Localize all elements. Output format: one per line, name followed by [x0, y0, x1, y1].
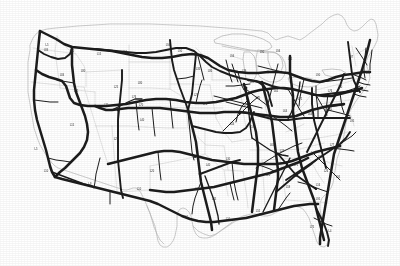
junction-node [257, 163, 259, 165]
route-shield-label: I-15 [70, 123, 75, 127]
route-shield-label: I-10 [226, 217, 231, 221]
route-shield-label: I-70 [104, 103, 109, 107]
route-shield-label: I-20 [266, 173, 271, 177]
route-shield-label: I-10 [44, 169, 49, 173]
route-shield-label: I-80 [208, 69, 213, 73]
route-shield-label: I-84 [44, 48, 49, 52]
route-i15 [56, 47, 88, 176]
route-i17 [94, 158, 100, 188]
junction-node [117, 109, 119, 111]
route-shield-label: I-76 [132, 95, 137, 99]
route-shield-label: I-87 [349, 55, 354, 59]
lake-michigan [243, 52, 257, 82]
state-line-or-ca [31, 82, 84, 87]
southern-coast-detail [147, 206, 164, 244]
route-nashville-spoke-sw [256, 154, 278, 168]
route-shield-label: I-29 [194, 53, 199, 57]
state-line-az-nm [112, 126, 117, 192]
route-plains-b [170, 99, 173, 128]
route-shreveport-link [230, 183, 234, 200]
route-shield-label: I-5 [45, 43, 49, 47]
route-shield-label: I-25 [114, 137, 119, 141]
route-i70 [95, 104, 344, 117]
route-i40 [108, 146, 340, 164]
route-shield-label: I-75 [310, 225, 315, 229]
route-shield-label: I-29 [194, 93, 199, 97]
junction-node [351, 73, 353, 75]
state-line-mn-ia [170, 84, 210, 85]
route-shield-label: I-26 [324, 169, 329, 173]
route-shield-label: I-80 [81, 69, 86, 73]
route-shield-label: I-90 [178, 49, 183, 53]
route-i25 [118, 70, 123, 198]
route-plains-a [152, 108, 155, 136]
route-shield-label: I-16 [316, 183, 321, 187]
route-i5 [34, 31, 55, 177]
route-shield-label: I-72 [244, 103, 249, 107]
route-shield-label: I-39 [242, 69, 247, 73]
route-shield-label: I-77 [330, 143, 335, 147]
route-shield-label: I-70 [256, 96, 261, 100]
route-i37 [192, 182, 201, 214]
route-shield-label: I-59 [286, 185, 291, 189]
junction-node [107, 163, 109, 165]
route-nyc-metro-c [354, 94, 366, 97]
route-shield-label: I-65 [270, 143, 275, 147]
junction-node [199, 173, 202, 176]
junction-node [277, 153, 280, 156]
lake-superior [214, 34, 272, 51]
junction-node [54, 176, 56, 178]
junction-node [315, 188, 317, 190]
route-shield-label: I-81 [328, 107, 333, 111]
route-shield-label: I-80 [138, 81, 143, 85]
route-shield-label: I-40 [262, 162, 267, 166]
route-i29-link [177, 76, 194, 79]
route-i39 [238, 72, 244, 90]
route-shield-label: I-65 [274, 89, 279, 93]
route-shield-label: I-75 [294, 163, 299, 167]
route-i27 [158, 152, 161, 180]
route-shield-label: I-10 [137, 187, 142, 191]
route-shield-label: I-80 [338, 85, 343, 89]
route-shield-label: I-75 [288, 57, 293, 61]
route-shield-label: I-45 [212, 197, 217, 201]
route-shield-label: I-85 [318, 155, 323, 159]
route-shield-label: I-90 [70, 49, 75, 53]
route-shield-label: I-95 [316, 197, 321, 201]
lake-huron [268, 52, 283, 73]
route-shield-label: I-15 [97, 52, 102, 56]
route-shield-label: I-90 [316, 73, 321, 77]
route-shield-label: I-64 [283, 109, 288, 113]
route-shield-label: I-70 [203, 102, 208, 106]
route-shield-label: I-94 [123, 50, 128, 54]
route-shield-label: I-55 [256, 209, 261, 213]
route-shield-label: I-8 [88, 182, 92, 186]
state-line-id-nv [55, 51, 60, 88]
junction-node [239, 112, 242, 115]
route-la-link [48, 158, 70, 162]
map-canvas: I-5I-90I-15I-94I-84I-80I-29I-35I-90I-94I… [0, 0, 400, 266]
route-shield-label: I-76 [328, 89, 333, 93]
junction-node [187, 109, 190, 112]
route-shield-label: I-70 [139, 103, 144, 107]
route-shield-label: I-90 [260, 50, 265, 54]
route-shield-label: I-57 [250, 125, 255, 129]
junction-node [294, 173, 297, 176]
route-shield-label: I-35 [196, 67, 201, 71]
route-shield-label: I-95 [350, 119, 355, 123]
junction-node [245, 87, 248, 90]
junction-node [267, 105, 270, 108]
route-shield-label: I-40 [206, 163, 211, 167]
route-i79 [316, 86, 318, 118]
route-shield-label: I-94 [276, 49, 281, 53]
route-shield-label: I-84 [60, 73, 65, 77]
interstate-highway-map: I-5I-90I-15I-94I-84I-80I-29I-35I-90I-94I… [0, 0, 400, 266]
junction-node [194, 156, 196, 158]
route-shield-label: I-94 [230, 54, 235, 58]
route-shield-labels-layer: I-5I-90I-15I-94I-84I-80I-29I-35I-90I-94I… [34, 43, 370, 233]
route-i88-il [226, 84, 250, 86]
route-shield-label: I-20 [150, 169, 155, 173]
route-shield-label: I-15 [74, 89, 79, 93]
state-line-pa-md [318, 100, 350, 104]
route-bayarea-link [34, 100, 58, 102]
